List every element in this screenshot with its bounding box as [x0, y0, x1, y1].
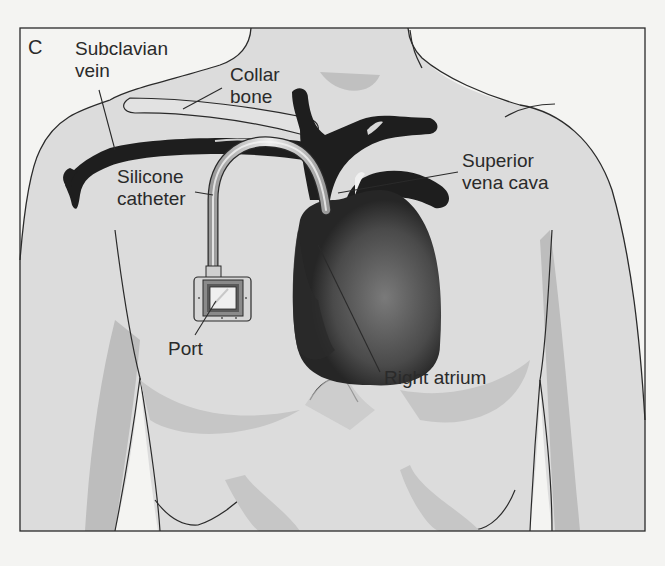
label-port: Port: [168, 338, 203, 360]
label-superior-vena-cava: Superior vena cava: [462, 150, 549, 194]
label-right-atrium: Right atrium: [384, 367, 486, 389]
panel-letter: C: [28, 36, 42, 59]
diagram-figure: C Subclavian vein Collar bone Silicone c…: [0, 0, 665, 566]
heart: [293, 190, 441, 385]
label-silicone-catheter: Silicone catheter: [117, 166, 186, 210]
chest-illustration: [0, 0, 665, 566]
label-subclavian-vein: Subclavian vein: [75, 38, 168, 82]
label-collar-bone: Collar bone: [230, 64, 280, 108]
